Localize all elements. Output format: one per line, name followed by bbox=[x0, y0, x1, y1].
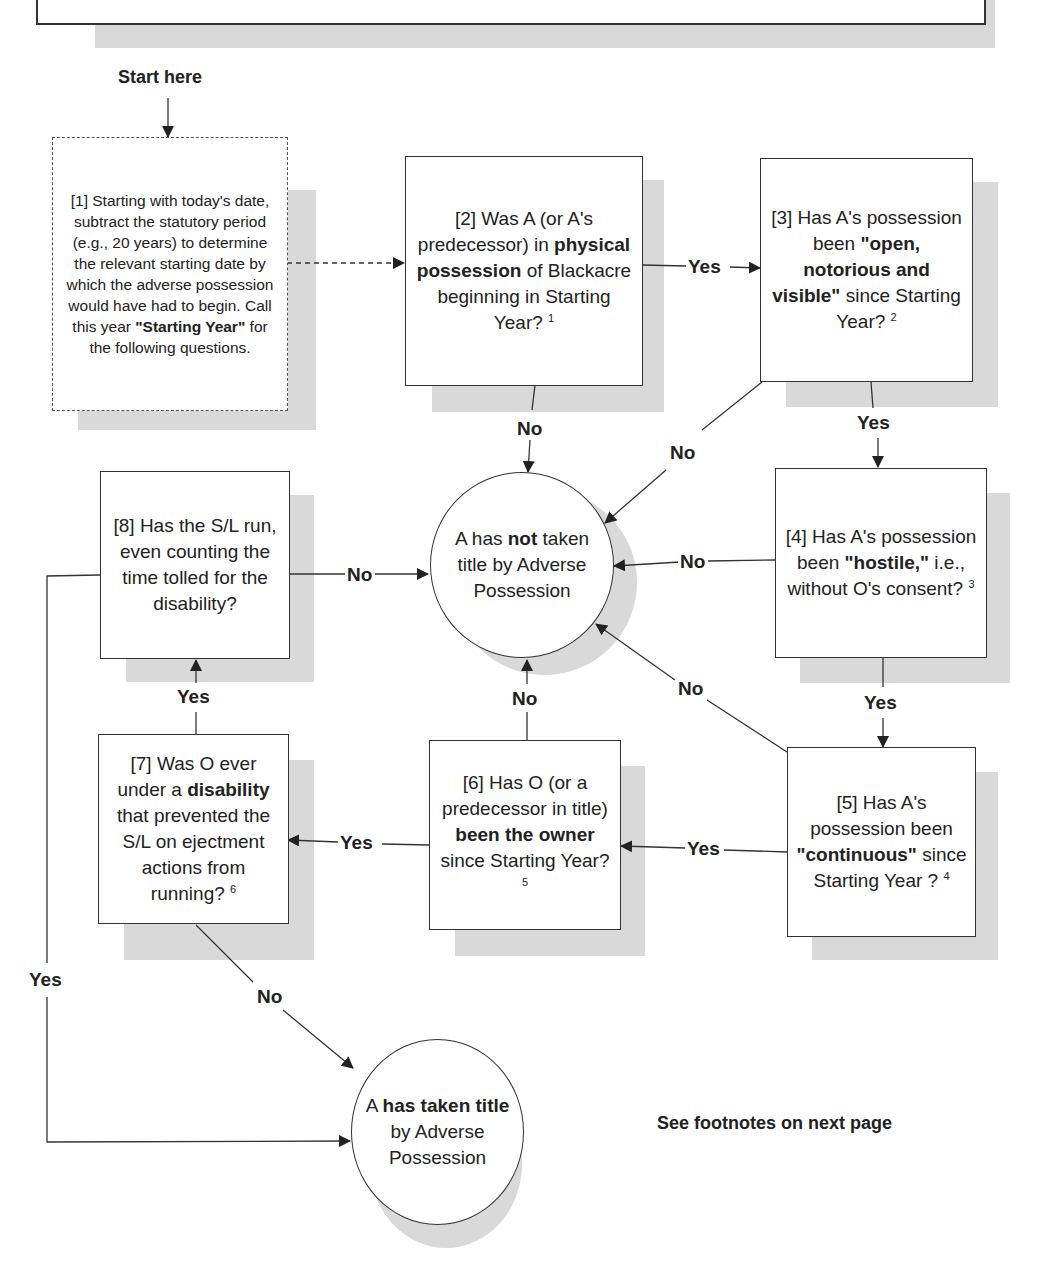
node-2-physical-possession: [2] Was A (or A's predecessor) in physic… bbox=[405, 156, 643, 386]
node-8-text: [8] Has the S/L run, even counting the t… bbox=[109, 513, 281, 617]
edge-label-8-taken-yes: Yes bbox=[27, 969, 64, 991]
node-7-disability: [7] Was O ever under a disability that p… bbox=[98, 734, 289, 924]
outcome-has-taken-title: A has taken title by Adverse Possession bbox=[351, 1039, 524, 1225]
edge-label-2-out-no: No bbox=[515, 418, 544, 440]
node-2-text: [2] Was A (or A's predecessor) in physic… bbox=[414, 206, 634, 336]
node-6-text: [6] Has O (or a predecessor in title) be… bbox=[438, 770, 612, 900]
edge-label-2-3-yes: Yes bbox=[686, 256, 723, 278]
node-7-text: [7] Was O ever under a disability that p… bbox=[107, 751, 280, 907]
edge-label-3-4-yes: Yes bbox=[855, 412, 892, 434]
node-1-text: [1] Starting with today's date, subtract… bbox=[61, 190, 279, 358]
node-8-sl-run: [8] Has the S/L run, even counting the t… bbox=[100, 471, 290, 659]
footnotes-note: See footnotes on next page bbox=[657, 1113, 892, 1134]
edge-label-6-out-no: No bbox=[510, 688, 539, 710]
node-3-open-notorious: [3] Has A's possession been "open, notor… bbox=[760, 158, 973, 382]
edge-label-4-out-no: No bbox=[678, 551, 707, 573]
start-here-label: Start here bbox=[116, 66, 204, 88]
edge-label-8-out-no: No bbox=[345, 564, 374, 586]
edge-label-5-6-yes: Yes bbox=[685, 838, 722, 860]
node-5-text: [5] Has A's possession been "continuous"… bbox=[796, 790, 967, 894]
outcome-taken-text: A has taken title by Adverse Possession bbox=[358, 1093, 517, 1171]
node-4-text: [4] Has A's possession been "hostile," i… bbox=[784, 524, 978, 602]
outcome-not-taken-title: A has not taken title by Adverse Possess… bbox=[430, 472, 614, 658]
edge-label-7-8-yes: Yes bbox=[175, 686, 212, 708]
edge-label-4-5-yes: Yes bbox=[862, 692, 899, 714]
edge-label-3-out-no: No bbox=[668, 442, 697, 464]
node-3-text: [3] Has A's possession been "open, notor… bbox=[769, 205, 964, 335]
node-5-continuous: [5] Has A's possession been "continuous"… bbox=[787, 747, 976, 937]
node-4-hostile: [4] Has A's possession been "hostile," i… bbox=[775, 468, 987, 658]
edge-label-6-7-yes: Yes bbox=[338, 832, 375, 854]
node-1-starting-year: [1] Starting with today's date, subtract… bbox=[52, 137, 288, 411]
node-6-owner: [6] Has O (or a predecessor in title) be… bbox=[429, 740, 621, 930]
edge-label-5-out-no: No bbox=[676, 678, 705, 700]
edge-label-7-taken-no: No bbox=[255, 986, 284, 1008]
outcome-not-taken-text: A has not taken title by Adverse Possess… bbox=[449, 526, 595, 604]
